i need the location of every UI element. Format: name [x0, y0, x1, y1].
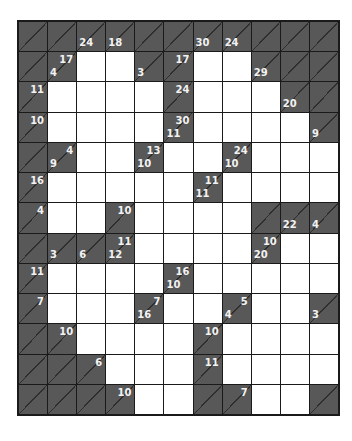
entry-cell[interactable] — [48, 82, 76, 111]
entry-cell[interactable] — [135, 113, 163, 142]
across-clue: 16 — [176, 267, 190, 277]
entry-cell[interactable] — [281, 113, 309, 142]
entry-cell[interactable] — [310, 234, 338, 263]
entry-cell[interactable] — [223, 52, 251, 81]
entry-cell[interactable] — [164, 173, 192, 202]
entry-cell[interactable] — [77, 203, 105, 232]
entry-cell[interactable] — [281, 173, 309, 202]
entry-cell[interactable] — [281, 143, 309, 172]
entry-cell[interactable] — [164, 203, 192, 232]
entry-cell[interactable] — [194, 113, 222, 142]
entry-cell[interactable] — [77, 113, 105, 142]
entry-cell[interactable] — [48, 203, 76, 232]
entry-cell[interactable] — [77, 52, 105, 81]
entry-cell[interactable] — [106, 113, 134, 142]
entry-cell[interactable] — [194, 294, 222, 323]
entry-cell[interactable] — [252, 324, 280, 353]
entry-cell[interactable] — [281, 264, 309, 293]
entry-cell[interactable] — [223, 234, 251, 263]
entry-cell[interactable] — [281, 385, 309, 414]
entry-cell[interactable] — [164, 355, 192, 384]
entry-cell[interactable] — [252, 82, 280, 111]
entry-cell[interactable] — [106, 355, 134, 384]
block-cell — [19, 324, 47, 353]
entry-cell[interactable] — [135, 355, 163, 384]
entry-cell[interactable] — [164, 385, 192, 414]
entry-cell[interactable] — [223, 264, 251, 293]
entry-cell[interactable] — [310, 173, 338, 202]
down-clue: 4 — [225, 310, 232, 320]
entry-cell[interactable] — [194, 82, 222, 111]
entry-cell[interactable] — [252, 173, 280, 202]
entry-cell[interactable] — [164, 324, 192, 353]
entry-cell[interactable] — [252, 143, 280, 172]
entry-cell[interactable] — [194, 52, 222, 81]
entry-cell[interactable] — [223, 173, 251, 202]
entry-cell[interactable] — [77, 82, 105, 111]
entry-cell[interactable] — [77, 143, 105, 172]
entry-cell[interactable] — [106, 173, 134, 202]
entry-cell[interactable] — [164, 294, 192, 323]
clue-cell: 1111 — [194, 173, 222, 202]
entry-cell[interactable] — [252, 294, 280, 323]
entry-cell[interactable] — [310, 355, 338, 384]
entry-cell[interactable] — [194, 234, 222, 263]
clue-cell: 49 — [48, 143, 76, 172]
entry-cell[interactable] — [135, 385, 163, 414]
clue-cell: 716 — [135, 294, 163, 323]
clue-cell: 4 — [19, 203, 47, 232]
entry-cell[interactable] — [48, 294, 76, 323]
across-clue: 6 — [95, 358, 102, 368]
entry-cell[interactable] — [164, 143, 192, 172]
entry-cell[interactable] — [106, 82, 134, 111]
entry-cell[interactable] — [106, 264, 134, 293]
across-clue: 4 — [66, 146, 73, 156]
entry-cell[interactable] — [106, 143, 134, 172]
clue-cell: 1112 — [106, 234, 134, 263]
entry-cell[interactable] — [281, 324, 309, 353]
entry-cell[interactable] — [77, 324, 105, 353]
entry-cell[interactable] — [310, 324, 338, 353]
entry-cell[interactable] — [252, 385, 280, 414]
clue-cell: 10 — [106, 203, 134, 232]
entry-cell[interactable] — [194, 143, 222, 172]
down-clue: 29 — [254, 68, 268, 78]
block-cell — [281, 52, 309, 81]
entry-cell[interactable] — [77, 264, 105, 293]
entry-cell[interactable] — [77, 294, 105, 323]
entry-cell[interactable] — [252, 355, 280, 384]
entry-cell[interactable] — [194, 203, 222, 232]
entry-cell[interactable] — [48, 113, 76, 142]
entry-cell[interactable] — [223, 113, 251, 142]
entry-cell[interactable] — [135, 324, 163, 353]
clue-cell: 24 — [77, 22, 105, 51]
entry-cell[interactable] — [135, 82, 163, 111]
block-cell — [19, 22, 47, 51]
entry-cell[interactable] — [135, 203, 163, 232]
entry-cell[interactable] — [135, 264, 163, 293]
entry-cell[interactable] — [135, 234, 163, 263]
entry-cell[interactable] — [223, 82, 251, 111]
entry-cell[interactable] — [48, 173, 76, 202]
entry-cell[interactable] — [77, 173, 105, 202]
entry-cell[interactable] — [310, 143, 338, 172]
entry-cell[interactable] — [281, 294, 309, 323]
entry-cell[interactable] — [106, 324, 134, 353]
block-cell — [19, 355, 47, 384]
entry-cell[interactable] — [106, 52, 134, 81]
entry-cell[interactable] — [223, 324, 251, 353]
clue-cell: 1310 — [135, 143, 163, 172]
entry-cell[interactable] — [310, 264, 338, 293]
entry-cell[interactable] — [281, 355, 309, 384]
down-clue: 11 — [196, 189, 210, 199]
entry-cell[interactable] — [135, 173, 163, 202]
entry-cell[interactable] — [194, 264, 222, 293]
entry-cell[interactable] — [48, 264, 76, 293]
entry-cell[interactable] — [223, 355, 251, 384]
entry-cell[interactable] — [223, 203, 251, 232]
entry-cell[interactable] — [252, 113, 280, 142]
entry-cell[interactable] — [164, 234, 192, 263]
entry-cell[interactable] — [252, 264, 280, 293]
entry-cell[interactable] — [106, 294, 134, 323]
entry-cell[interactable] — [281, 234, 309, 263]
